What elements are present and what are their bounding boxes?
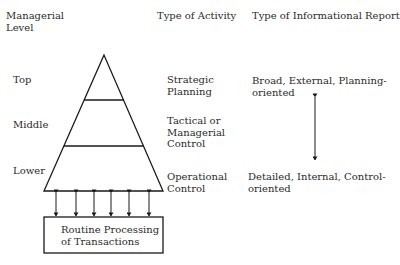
transaction-arrows — [56, 193, 149, 216]
pyramid-outline — [44, 55, 163, 191]
routine-processing-label: Routine Processing of Transactions — [44, 217, 163, 253]
pyramid-shape — [44, 55, 163, 191]
